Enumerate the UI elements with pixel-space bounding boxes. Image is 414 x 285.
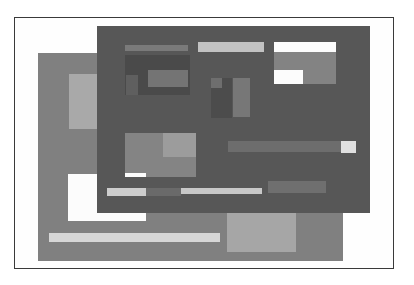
front-top-bar-light bbox=[198, 42, 264, 52]
front-big-box-white-strip bbox=[125, 173, 146, 177]
front-big-box-inner bbox=[163, 133, 196, 157]
front-bottom-bar-light-left bbox=[107, 188, 146, 196]
front-top-bar-mid bbox=[125, 45, 188, 51]
front-bottom-right-bar bbox=[268, 181, 326, 193]
front-small-rect bbox=[126, 75, 138, 95]
front-bottom-bar-mid bbox=[146, 188, 181, 196]
back-window-light-panel bbox=[69, 74, 98, 129]
back-window-light-box bbox=[227, 213, 296, 252]
front-tall-rect bbox=[233, 78, 250, 117]
front-small-square bbox=[211, 78, 222, 88]
back-window-long-bar bbox=[49, 233, 220, 242]
front-mid-rect bbox=[148, 70, 188, 87]
front-white-square bbox=[341, 141, 356, 153]
front-top-right-white-bar bbox=[274, 42, 336, 52]
front-long-bar bbox=[228, 141, 341, 152]
front-bottom-bar-light-right bbox=[181, 188, 262, 194]
front-top-right-white-small bbox=[274, 70, 303, 84]
